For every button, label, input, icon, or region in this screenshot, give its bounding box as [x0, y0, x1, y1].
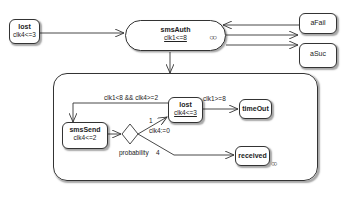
- state-received[interactable]: received: [235, 146, 270, 166]
- state-name: received: [236, 152, 269, 159]
- state-timeOut[interactable]: timeOut: [239, 99, 272, 119]
- state-smsAuth[interactable]: smsAuth clk1<=8 ○○: [125, 20, 226, 51]
- state-smsSend[interactable]: smsSend clk4<=2: [62, 122, 108, 149]
- state-name: smsSend: [63, 126, 107, 133]
- lost-reset-label: clk4:=0: [149, 127, 170, 134]
- lost-weight-label: 1: [149, 117, 153, 124]
- state-name: aSuc: [300, 50, 336, 57]
- state-aFail[interactable]: aFail: [299, 13, 337, 34]
- choice-label: probability: [119, 149, 149, 156]
- state-invariant: clk4<=3: [10, 31, 39, 38]
- retry-guard-label: clk1<8 && clk4>=2: [104, 94, 158, 101]
- state-name: aFail: [300, 19, 336, 26]
- state-aSuc[interactable]: aSuc: [299, 43, 337, 68]
- state-name: lost: [169, 101, 202, 108]
- timeout-guard-label: clk1>=8: [203, 95, 226, 102]
- state-invariant: clk4<=2: [63, 134, 107, 141]
- composite-state-icon: ○○: [209, 33, 215, 42]
- state-name: smsAuth: [126, 26, 225, 33]
- state-invariant: clk4<=3: [169, 109, 202, 116]
- composite-state-icon: ○○: [271, 160, 275, 167]
- state-lost-top[interactable]: lost clk4<=3: [9, 19, 40, 44]
- state-name: timeOut: [240, 105, 271, 112]
- state-lost-inner[interactable]: lost clk4<=3: [168, 97, 203, 123]
- received-weight-label: 4: [156, 149, 160, 156]
- state-name: lost: [10, 23, 39, 30]
